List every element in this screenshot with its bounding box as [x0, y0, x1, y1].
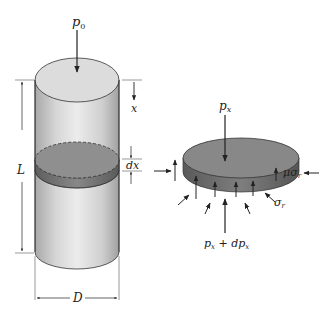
top-load-label: p0	[72, 14, 85, 31]
radial-stress-label-group: σr	[274, 196, 286, 210]
dx-label: dx	[126, 159, 140, 172]
disc-top-face	[183, 138, 299, 178]
dx-dimension: dx	[122, 146, 142, 184]
top-pressure-label: px	[219, 99, 232, 114]
cylinder	[35, 58, 119, 269]
diagram-canvas: p0 x dx L D px	[0, 0, 335, 309]
bottom-pressure-label: px + dpx	[204, 237, 249, 251]
free-body-disc	[183, 138, 299, 192]
length-label: L	[16, 163, 25, 177]
friction-stress-label-group: μσr	[283, 166, 319, 180]
slice-element	[35, 142, 119, 188]
x-label: x	[131, 102, 138, 115]
radial-stress-label: σr	[274, 196, 286, 210]
diameter-label: D	[72, 291, 83, 305]
radial-stress-arrows	[178, 193, 275, 214]
x-dimension: x	[122, 80, 142, 115]
length-dimension: L	[15, 80, 34, 253]
left-radial-arrow	[154, 160, 175, 181]
bottom-pressure-arrow: px + dpx	[204, 199, 249, 251]
